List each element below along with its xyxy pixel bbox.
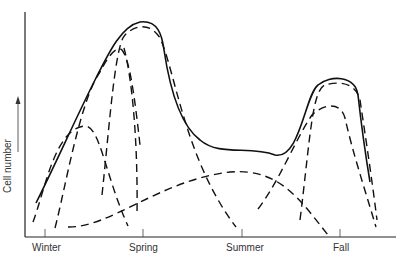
succession-diagram (0, 0, 410, 259)
y-axis-label: Cell number (2, 139, 13, 193)
species-d-curve (68, 172, 328, 235)
species-e-curve (258, 106, 376, 227)
species-c-curve (102, 27, 236, 227)
x-tick-label-spring: Spring (129, 242, 158, 253)
up-arrow-icon (16, 96, 21, 152)
x-tick-label-fall: Fall (333, 242, 349, 253)
species-a-curve (33, 126, 128, 226)
x-tick-label-winter: Winter (32, 242, 61, 253)
total-envelope-curve (36, 22, 370, 203)
x-tick-label-summer: Summer (226, 242, 264, 253)
